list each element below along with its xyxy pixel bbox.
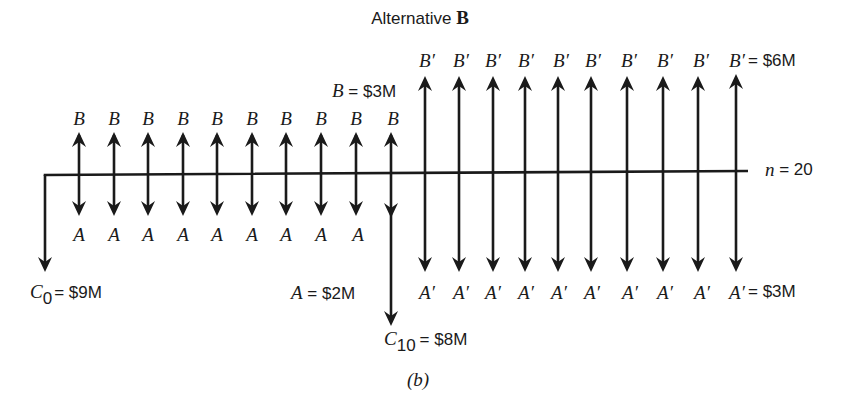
a-prime-labels: A′ A′ A′ A′ A′ A′ A′ A′ A′ A′: [417, 282, 746, 303]
diagram-title: Alternative B: [371, 7, 469, 28]
a-value-label: A = $2M: [289, 282, 355, 303]
svg-text:A: A: [313, 224, 327, 245]
svg-text:B′: B′: [419, 50, 436, 71]
svg-text:B: B: [108, 108, 120, 129]
n-label: n = 20: [765, 159, 813, 180]
b-labels: B B B B B B B B B B: [73, 108, 399, 129]
svg-text:B: B: [350, 108, 362, 129]
svg-text:B′: B′: [621, 50, 638, 71]
svg-text:B′: B′: [553, 50, 570, 71]
c0-label: C0= $9M: [30, 281, 102, 308]
svg-text:B: B: [177, 108, 189, 129]
svg-text:B′: B′: [585, 50, 602, 71]
svg-text:B: B: [387, 108, 399, 129]
svg-text:A: A: [175, 224, 189, 245]
a-prime-value-label: = $3M: [748, 282, 796, 301]
svg-text:A′: A′: [655, 282, 674, 303]
svg-text:B′: B′: [518, 50, 535, 71]
svg-text:B′: B′: [729, 50, 746, 71]
svg-text:B′: B′: [485, 50, 502, 71]
svg-text:A′: A′: [483, 282, 502, 303]
c10-label: C10= $8M: [384, 328, 467, 355]
svg-text:B′: B′: [453, 50, 470, 71]
svg-text:A: A: [278, 224, 292, 245]
svg-text:A: A: [106, 224, 120, 245]
svg-text:A′: A′: [417, 282, 436, 303]
svg-text:B: B: [280, 108, 292, 129]
figure-caption: (b): [407, 369, 429, 391]
svg-text:B: B: [142, 108, 154, 129]
b-prime-value-label: = $6M: [748, 51, 796, 70]
svg-text:B: B: [315, 108, 327, 129]
b-value-label: B = $3M: [332, 80, 396, 101]
svg-text:A: A: [244, 224, 258, 245]
svg-text:A′: A′: [727, 282, 746, 303]
cash-flow-diagram: Alternative B n = 20 C0= $9M B B B B B B…: [0, 0, 849, 395]
timeline-axis: [45, 171, 748, 268]
svg-text:A: A: [209, 224, 223, 245]
svg-text:B: B: [246, 108, 258, 129]
svg-text:A′: A′: [451, 282, 470, 303]
svg-text:A′: A′: [516, 282, 535, 303]
svg-text:B: B: [211, 108, 223, 129]
svg-text:A: A: [350, 224, 364, 245]
svg-text:B: B: [73, 108, 85, 129]
svg-text:A′: A′: [582, 282, 601, 303]
b-prime-labels: B′ B′ B′ B′ B′ B′ B′ B′ B′ B′: [419, 50, 746, 71]
svg-text:A: A: [71, 224, 85, 245]
a-labels: A A A A A A A A A: [71, 224, 364, 245]
svg-text:A: A: [140, 224, 154, 245]
svg-text:A′: A′: [549, 282, 568, 303]
svg-text:B′: B′: [657, 50, 674, 71]
svg-text:A′: A′: [692, 282, 711, 303]
svg-text:A′: A′: [620, 282, 639, 303]
svg-text:B′: B′: [693, 50, 710, 71]
